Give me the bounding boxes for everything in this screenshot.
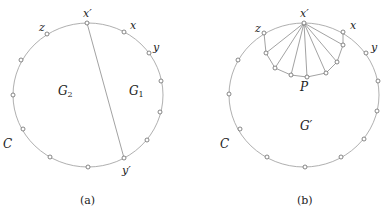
region-g-prime: G′ [300, 119, 313, 133]
vertex-x-a [122, 30, 126, 34]
vertex [158, 110, 162, 114]
vertex [48, 155, 52, 159]
vertex [21, 127, 25, 131]
vertex [362, 137, 366, 141]
path-label-p: P [299, 80, 309, 94]
path-vertex [264, 51, 268, 55]
vertex [19, 58, 23, 62]
cycle-label-a: C [3, 137, 12, 151]
label-x-b: x [350, 19, 357, 32]
vertex [375, 109, 379, 113]
cycle-label-b: C [220, 137, 229, 151]
vertex [265, 155, 269, 159]
region-g1: G1 [129, 84, 144, 99]
path-vertex [335, 60, 339, 64]
path-vertex [273, 66, 277, 70]
label-x-a: x [130, 19, 137, 32]
vertex-y-a [147, 51, 151, 55]
cycle-c-b [229, 23, 379, 167]
label-y-a: y [152, 41, 160, 54]
caption-b: (b) [297, 194, 313, 207]
vertex [227, 92, 231, 96]
vertex-x-b [341, 30, 345, 34]
figure: x′ z x y y′ G2 G1 C (a) [0, 0, 382, 212]
vertex [86, 165, 90, 169]
vertex [236, 58, 240, 62]
panel-b: x′ z x y P G′ C (b) [220, 7, 380, 207]
vertex [339, 155, 343, 159]
path-vertex [289, 73, 293, 77]
chord-xprime-yprime [87, 23, 124, 158]
vertex [376, 79, 380, 83]
vertex-x-prime-b [302, 21, 306, 25]
vertex [238, 127, 242, 131]
region-g2: G2 [58, 84, 73, 99]
vertex [303, 165, 307, 169]
panel-a: x′ z x y y′ G2 G1 C (a) [3, 7, 163, 207]
vertex-x-prime-a [85, 21, 89, 25]
path-vertex [324, 71, 328, 75]
label-x-prime-b: x′ [300, 7, 309, 20]
vertex-z-b [262, 31, 266, 35]
path-vertex [305, 75, 309, 79]
vertex-y-prime-a [122, 156, 126, 160]
label-z-b: z [254, 22, 261, 35]
vertex [11, 93, 15, 97]
label-y-prime-a: y′ [121, 164, 131, 177]
label-x-prime-a: x′ [83, 7, 92, 20]
label-z-a: z [38, 21, 45, 34]
vertex [145, 138, 149, 142]
path-vertex [341, 43, 345, 47]
vertex-y-b [364, 51, 368, 55]
label-y-b: y [370, 41, 378, 54]
vertex [159, 79, 163, 83]
vertex-z-a [45, 32, 49, 36]
caption-a: (a) [80, 194, 95, 207]
